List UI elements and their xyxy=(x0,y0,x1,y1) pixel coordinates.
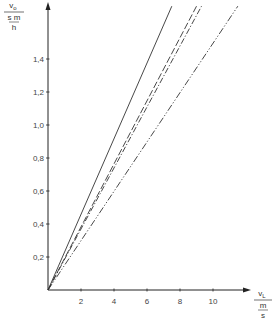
y-axis-label-unit-denominator: h xyxy=(12,23,16,32)
x-tick-label: 2 xyxy=(79,297,84,306)
series-line-dashed xyxy=(48,6,197,290)
x-tick-label: 4 xyxy=(112,297,117,306)
axis-labels: vos mhvLms xyxy=(4,1,272,320)
y-axis-label-unit-numerator: s m xyxy=(8,13,21,22)
x-axis-label-unit-numerator: m xyxy=(260,301,267,310)
y-tick-label: 0,6 xyxy=(33,187,45,196)
x-tick-label: 6 xyxy=(145,297,150,306)
series-line-solid xyxy=(48,6,172,290)
x-tick-label: 8 xyxy=(178,297,183,306)
x-axis-arrow-icon xyxy=(243,288,251,293)
y-axis-arrow-icon xyxy=(46,2,51,10)
x-axis-label-unit-denominator: s xyxy=(261,311,265,320)
y-tick-label: 0,2 xyxy=(33,253,45,262)
ticks: 2468100,20,40,60,81,01,21,4 xyxy=(33,55,218,306)
x-axis-label-symbol: vL xyxy=(258,289,266,299)
series-line-dash-dot xyxy=(48,6,202,290)
y-tick-label: 0,8 xyxy=(33,154,45,163)
line-chart: 2468100,20,40,60,81,01,21,4 vos mhvLms xyxy=(0,0,278,322)
y-tick-label: 1,0 xyxy=(33,121,45,130)
series-lines xyxy=(48,6,238,290)
axes xyxy=(46,2,252,293)
x-tick-label: 10 xyxy=(209,297,218,306)
series-line-dash-dot-dot xyxy=(48,6,238,290)
y-tick-label: 0,4 xyxy=(33,220,45,229)
chart-root: 2468100,20,40,60,81,01,21,4 vos mhvLms xyxy=(0,0,278,322)
y-tick-label: 1,2 xyxy=(33,88,45,97)
y-axis-label-symbol: vo xyxy=(9,1,17,11)
y-tick-label: 1,4 xyxy=(33,55,45,64)
